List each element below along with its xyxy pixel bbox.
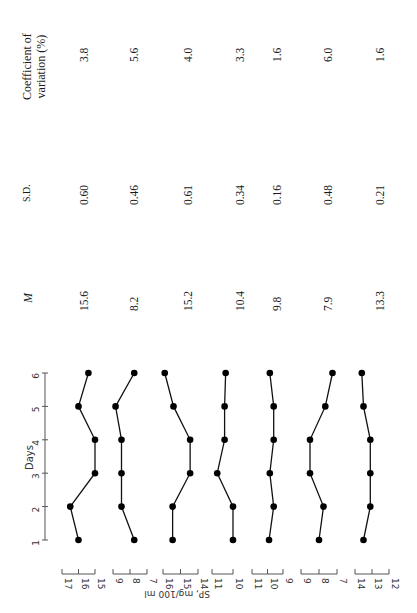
data-point [230, 503, 237, 510]
scale-tick-label: 11 [213, 578, 223, 589]
data-point [118, 470, 125, 477]
scale-tick-label: 7 [338, 578, 348, 584]
series-line [70, 373, 95, 540]
data-point [307, 437, 314, 444]
data-point [187, 470, 194, 477]
scale-tick-label: 10 [234, 578, 244, 590]
scale-tick-label: 10 [269, 578, 279, 590]
data-point [214, 470, 221, 477]
data-point [118, 503, 125, 510]
data-point [75, 537, 82, 544]
series-line [217, 373, 233, 540]
series-line [310, 373, 333, 540]
scale-tick-label: 8 [320, 578, 330, 584]
data-point [131, 370, 138, 377]
data-point [170, 403, 177, 410]
data-point [367, 437, 374, 444]
series-line [165, 373, 190, 540]
series-line [116, 373, 135, 540]
data-point [221, 437, 228, 444]
scale-tick-label: 14 [356, 578, 366, 590]
scale-tick-label: 12 [390, 578, 400, 589]
scale-tick-label: 13 [373, 578, 383, 589]
data-point [222, 370, 229, 377]
data-point [329, 370, 336, 377]
data-point [360, 403, 367, 410]
data-point [316, 537, 323, 544]
data-point [367, 470, 374, 477]
data-point [187, 437, 194, 444]
data-point [270, 503, 277, 510]
data-point [221, 403, 228, 410]
data-point [92, 470, 99, 477]
value-axis-label: SP, mg/100 ml [144, 589, 210, 599]
data-point [161, 370, 168, 377]
days-tick-label: 6 [31, 373, 41, 379]
data-point [131, 537, 138, 544]
data-point [85, 370, 92, 377]
data-point [266, 537, 273, 544]
scale-tick-label: 7 [148, 578, 158, 584]
days-tick-label: 3 [31, 473, 41, 479]
scale-tick-label: 16 [164, 578, 174, 590]
scale-tick-label: 9 [284, 578, 294, 584]
scale-tick-label: 8 [131, 578, 141, 584]
days-tick-label: 5 [31, 407, 41, 413]
data-point [359, 370, 366, 377]
data-point [360, 537, 367, 544]
days-tick-label: 2 [31, 507, 41, 513]
data-point [169, 503, 176, 510]
data-point [307, 470, 314, 477]
data-point [267, 470, 274, 477]
series-line [269, 373, 274, 540]
data-point [92, 437, 99, 444]
data-point [75, 403, 82, 410]
scale-tick-label: 15 [182, 578, 192, 589]
days-axis-label: Days [24, 445, 35, 470]
scale-tick-label: 16 [80, 578, 90, 590]
data-point [112, 403, 119, 410]
data-point [118, 437, 125, 444]
days-tick-label: 1 [31, 540, 41, 546]
data-point [320, 503, 327, 510]
data-point [230, 537, 237, 544]
scale-tick-label: 9 [114, 578, 124, 584]
data-point [367, 503, 374, 510]
scale-tick-label: 9 [302, 578, 312, 584]
data-point [169, 537, 176, 544]
scale-tick-label: 17 [63, 578, 73, 589]
scale-tick-label: 11 [253, 578, 263, 589]
data-point [267, 370, 274, 377]
scale-tick-label: 14 [199, 578, 209, 590]
scale-tick-label: 15 [96, 578, 106, 589]
data-point [270, 437, 277, 444]
sp-line-chart: 123456171615987161514111011109987141312 [0, 0, 417, 613]
data-point [322, 403, 329, 410]
series-line [362, 373, 371, 540]
data-point [270, 403, 277, 410]
data-point [67, 503, 74, 510]
